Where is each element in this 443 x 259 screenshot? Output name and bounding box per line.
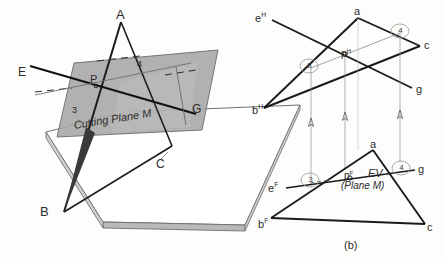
label-a-front-view: a [370, 139, 376, 150]
label-C-pictorial: C [156, 158, 165, 170]
drawing-svg [0, 0, 443, 259]
label-e-front-view: eF [268, 182, 278, 194]
projection-lines [308, 18, 402, 178]
label-4-pictorial: 4 [137, 60, 142, 69]
label-A-pictorial: A [116, 8, 125, 21]
label-ev-front-view: EV [368, 168, 383, 179]
label-b-top-view-sup: H [258, 103, 263, 110]
label-a-top-view: a [354, 6, 360, 17]
label-e-top-view: eH [255, 12, 266, 24]
label-P-pictorial: P [90, 74, 97, 85]
label-c-top-view: c [424, 40, 430, 51]
figure-caption-b: (b) [344, 240, 357, 251]
label-E-pictorial: E [18, 66, 26, 78]
label-3-pictorial: 3 [72, 106, 77, 115]
figure-canvas: A B C E G P 3 4 Cutting Plane M eH bH a … [0, 0, 443, 259]
label-e-top-view-sup: H [261, 11, 266, 18]
callout-3-front-view: 3 [306, 176, 315, 184]
callout-3-top-view: 3 [305, 62, 314, 70]
label-p-top-view: pH [341, 48, 351, 59]
label-p-front-view-sup: F [350, 169, 354, 176]
label-g-top-view: g [416, 84, 422, 95]
label-G-pictorial: G [192, 103, 201, 115]
label-B-pictorial: B [40, 205, 49, 218]
label-g-front-view: g [418, 164, 424, 175]
label-plane-m-front-view: (Plane M) [341, 181, 384, 191]
label-b-front-view: bF [258, 218, 268, 230]
label-b-top-view: bH [252, 104, 263, 116]
callout-4-top-view: 4 [396, 27, 405, 35]
label-p-top-view-sup: H [347, 47, 351, 54]
label-e-front-view-sup: F [274, 181, 278, 188]
callout-4-front-view: 4 [397, 164, 406, 172]
label-c-front-view: c [427, 222, 433, 233]
label-b-front-view-sup: F [264, 217, 268, 224]
